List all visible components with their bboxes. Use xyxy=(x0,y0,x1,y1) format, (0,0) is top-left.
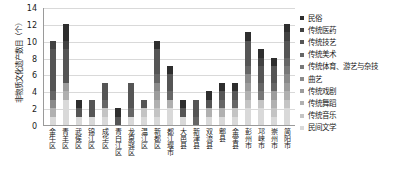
bar-segment xyxy=(193,117,199,125)
legend-label: 民俗 xyxy=(308,14,322,23)
bar-segment xyxy=(245,83,251,91)
legend-item[interactable]: 传统技艺 xyxy=(300,36,416,48)
legend-item[interactable]: 传统戏剧 xyxy=(300,85,416,97)
x-axis-label: 郫县 xyxy=(217,128,225,142)
x-label-slot: 简阳市 xyxy=(280,128,293,186)
bar-segment xyxy=(167,66,173,74)
bar-segment xyxy=(89,100,95,117)
bar-segment xyxy=(258,108,264,125)
bar-segment xyxy=(232,91,238,99)
bar-segment xyxy=(284,32,290,40)
bar-slot xyxy=(59,8,72,125)
bar-segment xyxy=(115,108,121,116)
stacked-bar[interactable] xyxy=(206,91,212,125)
legend-item[interactable]: 传统美术 xyxy=(300,49,416,61)
x-axis-label: 简阳市 xyxy=(283,128,291,149)
bar-segment xyxy=(50,108,56,116)
bar-segment xyxy=(284,66,290,74)
legend-swatch-icon xyxy=(300,89,304,93)
bar-slot xyxy=(228,8,241,125)
legend-swatch-icon xyxy=(300,65,304,69)
x-axis-label: 青羊区 xyxy=(61,128,69,149)
legend-swatch-icon xyxy=(300,40,304,44)
stacked-bar[interactable] xyxy=(76,100,82,125)
legend-item[interactable]: 曲艺 xyxy=(300,73,416,85)
x-axis-label: 崇州市 xyxy=(270,128,278,149)
stacked-bar[interactable] xyxy=(50,41,56,125)
bar-segment xyxy=(232,100,238,108)
y-tick-8: 8 xyxy=(1,54,37,63)
bar-segment xyxy=(219,108,225,116)
bar-segment xyxy=(245,66,251,74)
bar-segment xyxy=(50,49,56,91)
x-label-slot: 锦江区 xyxy=(84,128,97,186)
x-axis-label: 邛崃市 xyxy=(256,128,264,149)
stacked-bar[interactable] xyxy=(180,100,186,125)
bar-segment xyxy=(284,100,290,108)
bar-segment xyxy=(193,100,199,117)
bar-segment xyxy=(271,117,277,125)
x-axis-label: 龙泉驿区 xyxy=(126,128,134,156)
bar-segment xyxy=(89,117,95,125)
stacked-bar[interactable] xyxy=(245,32,251,125)
x-label-slot: 都江堰市 xyxy=(162,128,175,186)
y-tick-10: 10 xyxy=(1,37,37,46)
legend-item[interactable]: 传统音乐 xyxy=(300,110,416,122)
bar-segment xyxy=(154,83,160,91)
legend-label: 传统音乐 xyxy=(308,111,336,120)
bar-segment xyxy=(76,108,82,116)
stacked-bar[interactable] xyxy=(89,100,95,125)
stacked-bar[interactable] xyxy=(128,83,134,125)
plot-area xyxy=(43,8,295,126)
bar-segment xyxy=(258,83,264,91)
x-label-slot: 彭州市 xyxy=(241,128,254,186)
bar-segment xyxy=(180,108,186,116)
bar-slot xyxy=(215,8,228,125)
stacked-bar[interactable] xyxy=(63,24,69,125)
stacked-bar[interactable] xyxy=(141,100,147,125)
legend-item[interactable]: 民俗 xyxy=(300,12,416,24)
bar-segment xyxy=(258,66,264,83)
stacked-bar[interactable] xyxy=(154,41,160,125)
legend-item[interactable]: 民间文学 xyxy=(300,122,416,134)
x-label-slot: 新津县 xyxy=(189,128,202,186)
y-tick-2: 2 xyxy=(1,105,37,114)
bar-segment xyxy=(219,91,225,99)
stacked-bar[interactable] xyxy=(193,100,199,125)
stacked-bar[interactable] xyxy=(167,66,173,125)
stacked-bar[interactable] xyxy=(219,83,225,125)
legend-swatch-icon xyxy=(300,114,304,118)
legend-item[interactable]: 传统医药 xyxy=(300,24,416,36)
x-label-slot: 郫县 xyxy=(215,128,228,186)
bar-segment xyxy=(102,108,108,116)
stacked-bar[interactable] xyxy=(115,108,121,125)
legend-item[interactable]: 传统体育、游艺与杂技 xyxy=(300,61,416,73)
bar-segment xyxy=(167,108,173,125)
legend-label: 曲艺 xyxy=(308,75,322,84)
bar-segment xyxy=(219,117,225,125)
x-axis-label: 锦江区 xyxy=(87,128,95,149)
bar-segment xyxy=(154,117,160,125)
x-axis-tick-labels: 金牛区青羊区武侯区锦江区成华区青白江区龙泉驿区温江区新都区都江堰市大邑县新津县双… xyxy=(43,128,295,186)
bar-slot xyxy=(280,8,293,125)
x-label-slot: 崇州市 xyxy=(267,128,280,186)
bar-segment xyxy=(102,83,108,100)
bar-segment xyxy=(206,100,212,108)
stacked-bar[interactable] xyxy=(232,83,238,125)
stacked-bar[interactable] xyxy=(284,24,290,125)
chart-container: 非物质文化遗产数目（个） 02468101214 金牛区青羊区武侯区锦江区成华区… xyxy=(0,0,416,187)
legend-item[interactable]: 传统舞蹈 xyxy=(300,97,416,109)
bar-segment xyxy=(271,58,277,66)
bar-segment xyxy=(271,66,277,83)
stacked-bar[interactable] xyxy=(271,58,277,125)
bar-segment xyxy=(258,91,264,99)
bar-segment xyxy=(167,100,173,108)
stacked-bar[interactable] xyxy=(258,49,264,125)
bar-slot xyxy=(46,8,59,125)
x-label-slot: 新都区 xyxy=(149,128,162,186)
bar-slot xyxy=(241,8,254,125)
bar-segment xyxy=(206,108,212,116)
x-axis-label: 都江堰市 xyxy=(165,128,173,156)
bar-segment xyxy=(271,91,277,99)
stacked-bar[interactable] xyxy=(102,83,108,125)
